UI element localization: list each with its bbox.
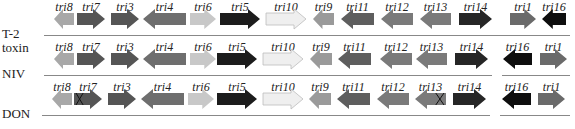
gene-tri13: tri13: [414, 0, 457, 40]
gene-tri13: tri13: [409, 80, 452, 120]
arrow-left-icon: [313, 9, 334, 29]
arrow-left-icon: [377, 89, 409, 109]
arrow-left-icon: [381, 9, 413, 29]
gene-tri11: tri11: [332, 40, 377, 80]
arrow-left-icon: [380, 49, 412, 69]
arrow-right-icon: [190, 9, 216, 29]
arrow-right-icon: [455, 49, 488, 69]
gene-tri16: tri16: [536, 0, 572, 40]
arrow-right-icon: [510, 9, 536, 29]
arrow-right-icon: [217, 49, 257, 69]
arrow-left-icon: [503, 49, 532, 69]
row-label: NIV: [2, 67, 25, 81]
gene-tri5: tri5: [214, 0, 266, 40]
row-t2-toxin: T-2 toxin tri8tri7tri3tri4tri6tri5tri10t…: [0, 0, 575, 40]
arrow-left-icon: [141, 89, 184, 109]
arrow-right-icon: [453, 89, 486, 109]
gene-tri10: tri10: [260, 0, 312, 40]
gene-tri14: tri14: [453, 0, 498, 40]
arrow-left-icon: [338, 49, 371, 69]
arrow-left-icon: [416, 49, 447, 69]
gene-tri13: tri13: [410, 40, 453, 80]
gene-tri1: tri1: [534, 40, 573, 80]
arrow-right-icon: [77, 9, 105, 29]
gene-tri16: tri16: [497, 40, 538, 80]
gene-tri1: tri1: [532, 80, 571, 120]
row-label-line: T-2: [2, 27, 29, 41]
arrow-right-icon: [540, 49, 567, 69]
arrow-right-icon: [111, 49, 139, 69]
gene-tri11: tri11: [335, 0, 380, 40]
arrow-left-icon: [310, 49, 332, 69]
arrow-right-icon: [108, 89, 136, 109]
arrow-left-icon: [341, 9, 374, 29]
gene-tri5: tri5: [211, 80, 263, 120]
gene-tri11: tri11: [331, 80, 376, 120]
arrow-left-icon: [542, 9, 566, 29]
arrow-right-icon: [263, 89, 303, 109]
gene-tri5: tri5: [211, 40, 263, 80]
arrow-left-icon: [143, 9, 186, 29]
gene-tri12: tri12: [375, 0, 419, 40]
arrow-right-icon: [220, 9, 260, 29]
row-label: DON: [2, 107, 30, 121]
row-label-line: DON: [2, 107, 30, 121]
arrow-right-icon: [77, 49, 105, 69]
arrow-left-icon: [415, 89, 446, 109]
arrow-right-icon: [74, 89, 102, 109]
arrow-left-icon: [337, 89, 370, 109]
arrow-left-icon: [502, 89, 531, 109]
row-don: DON tri8tri7tri3tri4tri6tri5tri10tri9tri…: [0, 80, 575, 120]
arrow-left-icon: [420, 9, 451, 29]
arrow-right-icon: [263, 49, 303, 69]
gene-tri14: tri14: [449, 40, 494, 80]
gene-tri10: tri10: [257, 40, 309, 80]
gene-tri14: tri14: [447, 80, 492, 120]
row-label-line: NIV: [2, 67, 25, 81]
arrow-left-icon: [143, 49, 186, 69]
arrow-left-icon: [309, 89, 331, 109]
row-niv: NIV tri8tri7tri3tri4tri6tri5tri10tri9tri…: [0, 40, 575, 80]
arrow-right-icon: [217, 89, 257, 109]
gene-tri10: tri10: [257, 80, 309, 120]
arrow-right-icon: [266, 9, 306, 29]
arrow-right-icon: [111, 9, 139, 29]
arrow-right-icon: [459, 9, 492, 29]
arrow-right-icon: [538, 89, 565, 109]
gene-tri16: tri16: [496, 80, 537, 120]
